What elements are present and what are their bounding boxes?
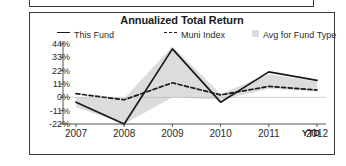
- x-axis-tick-label: 2009: [161, 128, 183, 139]
- y-axis-tick-label: 22%: [52, 66, 70, 76]
- avg-fund-type-band: [76, 46, 317, 124]
- y-axis-tick-label: 0%: [57, 92, 70, 102]
- ytd-label: YTD: [302, 128, 320, 138]
- y-axis-tick-label: 33%: [52, 52, 70, 62]
- annualized-total-return-chart-panel: Annualized Total Return This Fund Muni I…: [29, 12, 335, 155]
- y-axis-tick-label: -11%: [50, 106, 70, 116]
- y-axis-tick-label: 44%: [52, 39, 70, 49]
- cropped-panel-above: [29, 0, 314, 7]
- y-axis-tick-label: 11%: [53, 79, 70, 89]
- x-axis-tick-label: 2007: [65, 128, 87, 139]
- x-axis-tick-label: 2008: [113, 128, 135, 139]
- x-axis-tick-label: 2011: [258, 128, 280, 139]
- x-axis-tick-label: 2010: [209, 128, 231, 139]
